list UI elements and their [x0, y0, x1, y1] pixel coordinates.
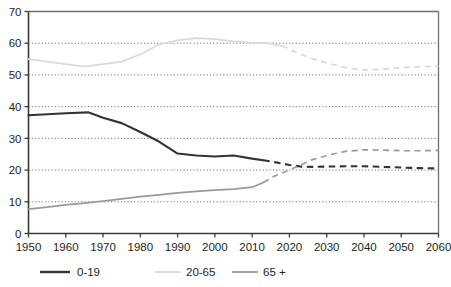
legend-item-65[interactable]: 65 + [232, 266, 286, 278]
y-tick-label-40: 40 [9, 101, 22, 113]
x-tick-label-2020: 2020 [277, 241, 303, 253]
line-chart-canvas: 0102030405060701950196019701980199020002… [0, 0, 451, 287]
x-tick-label-1990: 1990 [165, 241, 191, 253]
y-tick-label-60: 60 [9, 37, 22, 49]
y-tick-label-70: 70 [9, 6, 22, 18]
legend-label: 0-19 [77, 266, 100, 278]
x-tick-label-2060: 2060 [426, 241, 451, 253]
x-tick-label-1950: 1950 [16, 241, 42, 253]
x-tick-label-1980: 1980 [128, 241, 154, 253]
x-tick-label-1970: 1970 [90, 241, 116, 253]
legend-item-20-65[interactable]: 20-65 [155, 266, 215, 278]
x-tick-label-1960: 1960 [53, 241, 79, 253]
legend-label: 20-65 [186, 266, 215, 278]
y-tick-label-10: 10 [9, 196, 22, 208]
legend-item-0-19[interactable]: 0-19 [40, 266, 100, 278]
legend-label: 65 + [263, 266, 286, 278]
x-tick-label-2010: 2010 [239, 241, 265, 253]
plot-background [29, 12, 439, 234]
x-tick-label-2030: 2030 [314, 241, 340, 253]
x-tick-label-2050: 2050 [388, 241, 414, 253]
chart-figure: 0102030405060701950196019701980199020002… [0, 0, 451, 287]
y-tick-label-20: 20 [9, 164, 22, 176]
y-tick-label-0: 0 [15, 228, 21, 240]
y-tick-label-50: 50 [9, 69, 22, 81]
y-tick-label-30: 30 [9, 133, 22, 145]
x-tick-label-2000: 2000 [202, 241, 228, 253]
x-tick-label-2040: 2040 [351, 241, 377, 253]
